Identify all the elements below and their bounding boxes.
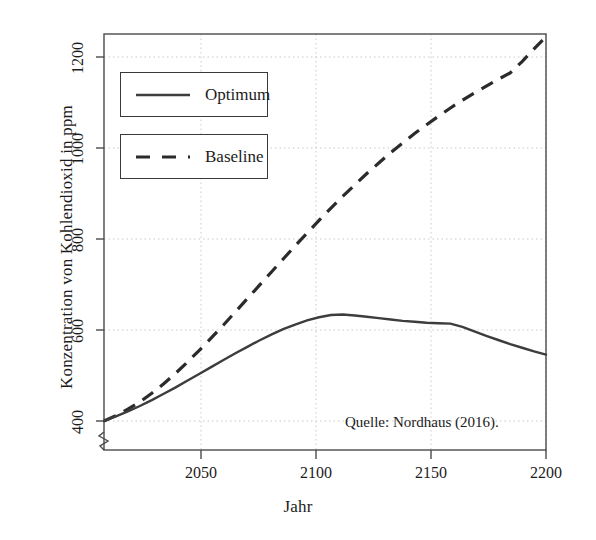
xtick-label-2100: 2100 bbox=[281, 464, 351, 482]
source-annotation: Quelle: Nordhaus (2016). bbox=[345, 414, 499, 431]
xtick-label-2200: 2200 bbox=[511, 464, 581, 482]
chart-figure: 400 600 800 1000 1200 2050 2100 2150 220… bbox=[0, 0, 596, 540]
legend-label-baseline: Baseline bbox=[205, 147, 264, 167]
x-axis-title: Jahr bbox=[0, 497, 596, 517]
xtick-label-2050: 2050 bbox=[166, 464, 236, 482]
legend-item-baseline[interactable]: Baseline bbox=[120, 134, 268, 179]
legend-swatch-solid-icon bbox=[135, 88, 191, 102]
xtick-label-2150: 2150 bbox=[396, 464, 466, 482]
plot-canvas bbox=[0, 0, 596, 540]
y-axis-title: Konzentration von Kohlendioxid in ppm bbox=[57, 47, 77, 447]
legend-item-optimum[interactable]: Optimum bbox=[120, 72, 268, 117]
series-line-optimum bbox=[104, 315, 546, 421]
legend-swatch-dashed-icon bbox=[135, 150, 191, 164]
y-tick-marks bbox=[96, 57, 104, 421]
legend-label-optimum: Optimum bbox=[205, 85, 270, 105]
x-tick-marks bbox=[201, 450, 546, 459]
